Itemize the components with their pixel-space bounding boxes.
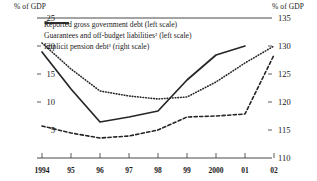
legend-key-solid-icon: [44, 19, 70, 27]
legend-item-implicit-pension-debt: Implicit pension debt³ (right scale): [44, 41, 191, 52]
chart-legend: Reported gross government debt (left sca…: [44, 19, 191, 52]
series-lines: [42, 43, 274, 138]
chart-figure: % of GDP % of GDP 25 20 15 10 5 135 130 …: [0, 0, 317, 181]
x-axis-ticks: [42, 153, 274, 158]
legend-item-guarantees-and-off-budget-liabilities: Guarantees and off-budget liabilities² (…: [44, 30, 191, 41]
legend-label-implicit-pension-debt: Implicit pension debt³ (right scale): [44, 42, 149, 51]
y-axis-ticks: [37, 46, 272, 130]
series-implicit-pension-debt: [42, 46, 245, 122]
legend-label-guarantees-and-off-budget-liabilities: Guarantees and off-budget liabilities² (…: [44, 31, 191, 40]
